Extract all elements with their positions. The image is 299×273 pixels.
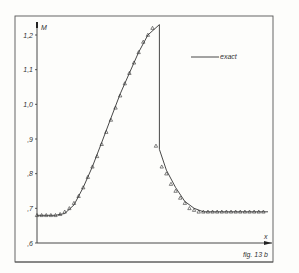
y-tick-label: 1,2 (23, 32, 33, 39)
y-tick-label: ,9 (27, 136, 33, 143)
triangle-marker-icon (160, 165, 163, 168)
y-tick-label: ,8 (27, 170, 33, 177)
y-tick-label: 1,1 (23, 66, 33, 73)
triangle-marker-icon (154, 144, 157, 147)
triangle-marker-icon (169, 182, 172, 185)
y-tick-label: 1,0 (23, 101, 33, 108)
triangle-marker-icon (105, 130, 108, 133)
triangle-marker-icon (118, 94, 121, 97)
triangle-marker-icon (188, 207, 191, 210)
y-tick-label: ,7 (27, 205, 34, 212)
y-axis-label: M (41, 24, 47, 31)
y-ticks: 1,21,11,0,9,8,7,6 (23, 32, 37, 247)
triangle-marker-icon (109, 118, 112, 121)
x-axis-label: x (263, 233, 268, 240)
legend: exact (191, 53, 238, 60)
triangle-marker-icon (114, 106, 117, 109)
legend-label-exact: exact (220, 53, 238, 60)
y-tick-label: ,6 (27, 240, 33, 247)
triangle-marker-icon (63, 210, 66, 213)
figure: M x 1,21,11,0,9,8,7,6 exact fig. 13 b (0, 0, 299, 273)
triangle-marker-icon (151, 26, 154, 29)
triangle-marker-icon (100, 142, 103, 145)
figure-caption: fig. 13 b (243, 251, 268, 259)
triangle-marker-icon (95, 155, 98, 158)
x-axis-arrow-icon (264, 241, 272, 245)
x-axis (37, 241, 272, 245)
